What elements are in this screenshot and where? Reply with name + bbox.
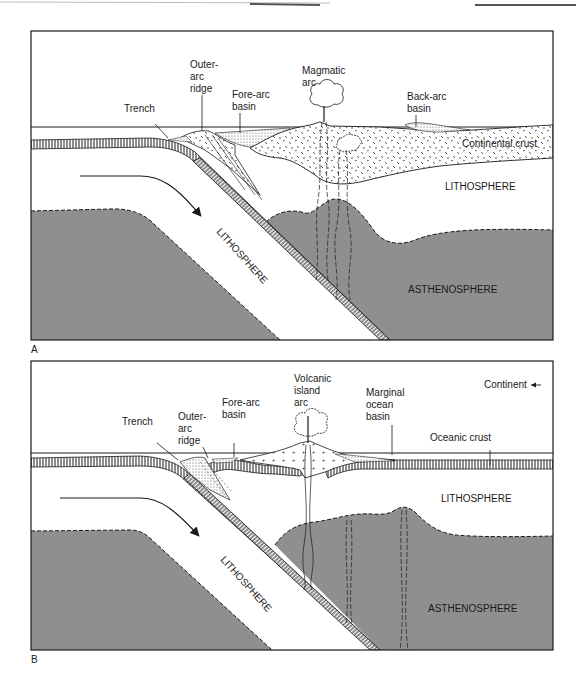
asthenosphere-left [31, 209, 280, 340]
label-fore-arc-basin-1: Fore-arc [232, 89, 270, 100]
label-outer-arc-ridge-1: Outer- [190, 59, 218, 70]
eruption-cloud-icon [294, 409, 327, 444]
label-back-arc-basin-1: Back-arc [407, 91, 446, 102]
label-volcanic-island-arc-1: Volcanic [294, 373, 331, 384]
label-oceanic-crust: Oceanic crust [430, 432, 491, 443]
page-edge [0, 2, 330, 3]
label-continental-crust: Continental crust [462, 138, 537, 149]
label-outer-arc-ridge-3: ridge [190, 83, 213, 94]
label-lithosphere-upper: LITHOSPHERE [445, 181, 516, 192]
label-fore-arc-basin-2: basin [222, 409, 246, 420]
label-lithosphere-slab: LITHOSPHERE [219, 554, 275, 614]
label-fore-arc-basin-2: basin [232, 101, 256, 112]
label-asthenosphere: ASTHENOSPHERE [408, 284, 498, 295]
label-outer-arc-ridge-2: arc [178, 423, 192, 434]
label-magmatic-arc-1: Magmatic [302, 65, 345, 76]
label-magmatic-arc-2: arc [302, 77, 316, 88]
label-outer-arc-ridge-3: ridge [178, 435, 201, 446]
asthenosphere-right [275, 507, 553, 650]
label-continent: Continent [484, 379, 527, 390]
panel-letter-b: B [31, 654, 38, 665]
label-outer-arc-ridge-2: arc [190, 71, 204, 82]
label-back-arc-basin-2: basin [407, 103, 431, 114]
label-trench: Trench [122, 416, 153, 427]
label-marginal-ocean-basin-3: basin [366, 411, 390, 422]
asthenosphere-left [31, 530, 272, 650]
subduction-arrow [60, 498, 198, 535]
label-trench: Trench [124, 103, 155, 114]
label-asthenosphere: ASTHENOSPHERE [428, 603, 518, 614]
label-fore-arc-basin-1: Fore-arc [222, 397, 260, 408]
page-edge [250, 4, 320, 5]
label-volcanic-island-arc-3: arc [294, 397, 308, 408]
label-marginal-ocean-basin-2: ocean [366, 399, 393, 410]
subduction-figure: + [0, 0, 576, 678]
label-outer-arc-ridge-1: Outer- [178, 411, 206, 422]
panel-letter-a: A [31, 344, 38, 355]
label-marginal-ocean-basin-1: Marginal [366, 387, 404, 398]
label-lithosphere-upper: LITHOSPHERE [441, 493, 512, 504]
oceanic-crust-b-far [325, 460, 553, 478]
label-volcanic-island-arc-2: island [294, 385, 320, 396]
panel-b: Trench Outer- arc ridge Fore-arc basin V… [31, 361, 553, 665]
continental-crust-a [250, 122, 553, 184]
label-lithosphere-slab: LITHOSPHERE [215, 226, 271, 286]
panel-a: Trench Outer- arc ridge Fore-arc basin M… [31, 31, 553, 355]
